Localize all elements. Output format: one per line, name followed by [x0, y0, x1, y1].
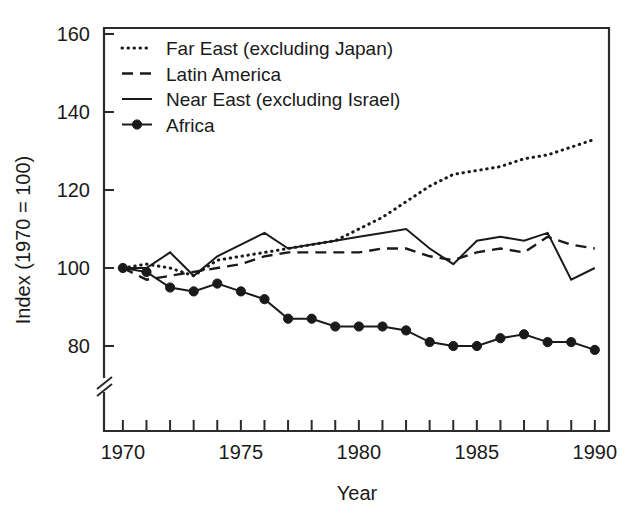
y-tick-label: 160 — [57, 23, 90, 45]
legend-label: Near East (excluding Israel) — [166, 89, 400, 110]
data-point-marker — [496, 334, 505, 343]
y-axis-ticks: 80100120140160 — [57, 23, 114, 357]
y-tick-label: 140 — [57, 101, 90, 123]
data-point-marker — [402, 326, 411, 335]
x-tick-label: 1975 — [219, 441, 264, 463]
data-point-marker — [331, 322, 340, 331]
y-tick-label: 80 — [68, 335, 90, 357]
data-point-marker — [260, 295, 269, 304]
chart-legend: Far East (excluding Japan)Latin AmericaN… — [122, 38, 400, 136]
x-tick-label: 1985 — [455, 441, 500, 463]
y-axis-title: Index (1970 = 100) — [12, 156, 34, 324]
data-series-group — [118, 139, 599, 354]
chart-canvas: 80100120140160 19701975198019851990 Far … — [0, 0, 633, 517]
data-point-marker — [567, 338, 576, 347]
data-point-marker — [354, 322, 363, 331]
y-tick-label: 100 — [57, 257, 90, 279]
x-tick-label: 1990 — [573, 441, 618, 463]
data-point-marker — [449, 341, 458, 350]
data-point-marker — [189, 287, 198, 296]
x-tick-label: 1980 — [337, 441, 382, 463]
legend-label: Far East (excluding Japan) — [166, 38, 393, 59]
series-line — [123, 237, 595, 280]
data-point-marker — [378, 322, 387, 331]
data-point-marker — [166, 283, 175, 292]
data-point-marker — [425, 338, 434, 347]
plot-frame — [97, 27, 610, 432]
x-axis-ticks: 19701975198019851990 — [101, 420, 617, 463]
data-point-marker — [118, 263, 127, 272]
data-point-marker — [213, 279, 222, 288]
data-point-marker — [519, 330, 528, 339]
data-point-marker — [284, 314, 293, 323]
legend-label: Africa — [166, 115, 215, 136]
y-tick-label: 120 — [57, 179, 90, 201]
data-point-marker — [472, 341, 481, 350]
data-point-marker — [307, 314, 316, 323]
data-point-marker — [236, 287, 245, 296]
legend-label: Latin America — [166, 64, 282, 85]
chart-figure: 80100120140160 19701975198019851990 Far … — [0, 0, 633, 517]
series-line — [123, 139, 595, 275]
x-tick-label: 1970 — [101, 441, 146, 463]
data-point-marker — [590, 345, 599, 354]
legend-marker — [132, 120, 141, 129]
data-point-marker — [543, 338, 552, 347]
x-axis-title: Year — [337, 482, 378, 504]
data-point-marker — [142, 267, 151, 276]
